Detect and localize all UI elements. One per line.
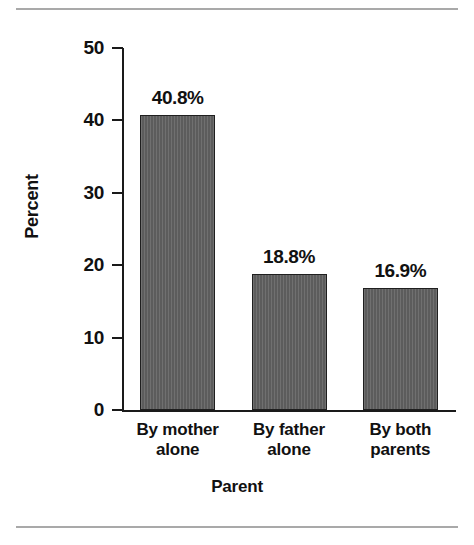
- x-axis-category-line: By father: [229, 420, 349, 440]
- bar-value-label: 40.8%: [118, 88, 238, 107]
- bar[interactable]: [252, 274, 327, 410]
- x-axis-category-line: parents: [340, 440, 460, 460]
- x-axis-category-line: alone: [229, 440, 349, 460]
- bar[interactable]: [140, 115, 215, 410]
- y-axis-tick: [112, 47, 123, 49]
- y-axis-tick-label: 20: [52, 255, 104, 274]
- y-axis-tick-label: 40: [52, 110, 104, 129]
- x-axis-title: Parent: [0, 477, 474, 497]
- y-axis-title: Percent: [22, 157, 43, 257]
- y-axis-tick-label: 50: [52, 38, 104, 57]
- y-axis-tick-label: 10: [52, 328, 104, 347]
- bar-value-label: 16.9%: [340, 261, 460, 280]
- x-axis-category-label: By bothparents: [340, 420, 460, 460]
- x-axis-category-line: alone: [118, 440, 238, 460]
- x-axis-category-label: By motheralone: [118, 420, 238, 460]
- x-axis-category-line: By both: [340, 420, 460, 440]
- top-divider-rule: [16, 8, 458, 10]
- x-axis-category-label: By fatheralone: [229, 420, 349, 460]
- x-axis-category-line: By mother: [118, 420, 238, 440]
- bar-value-label: 18.8%: [229, 247, 349, 266]
- bar-chart-figure: Percent 01020304050 40.8%By motheralone1…: [0, 0, 474, 545]
- y-axis-tick-label: 30: [52, 183, 104, 202]
- y-axis-tick: [112, 192, 123, 194]
- y-axis-tick: [112, 119, 123, 121]
- x-axis-line: [122, 410, 456, 412]
- y-axis-tick: [112, 337, 123, 339]
- bottom-divider-rule: [16, 526, 458, 528]
- y-axis-tick-label: 0: [52, 400, 104, 419]
- bar[interactable]: [363, 288, 438, 410]
- y-axis-tick: [112, 264, 123, 266]
